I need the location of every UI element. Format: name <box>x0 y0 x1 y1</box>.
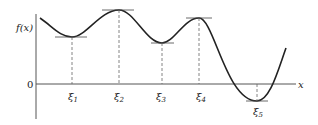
function-curve <box>40 10 286 101</box>
xi1-label: ξ1 <box>68 91 78 104</box>
y-axis-label: f(x) <box>15 22 33 33</box>
xi2-label: ξ2 <box>114 91 125 104</box>
xi3-label: ξ3 <box>156 91 167 104</box>
x-axis-label: x <box>298 79 304 90</box>
origin-label: 0 <box>27 79 33 90</box>
xi4-label: ξ4 <box>196 91 206 104</box>
critical-points-diagram: f(x) 0 x ξ1 ξ2 ξ3 ξ4 ξ5 <box>0 0 318 125</box>
xi5-label: ξ5 <box>253 106 264 119</box>
